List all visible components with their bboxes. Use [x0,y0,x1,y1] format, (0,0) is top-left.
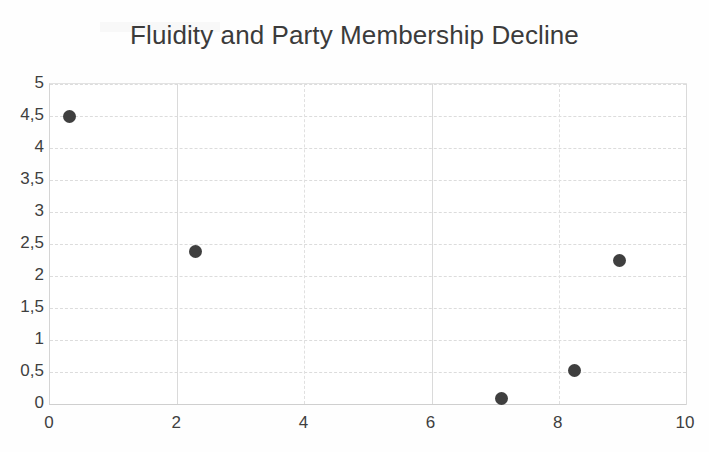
vertical-gridline [432,84,433,404]
chart-title: Fluidity and Party Membership Decline [0,20,709,51]
data-point [189,245,202,258]
y-axis-tick-label: 3 [2,201,44,221]
x-axis: 0246810 [49,413,687,441]
plot-area [49,83,687,405]
y-axis-tick-label: 5 [2,73,44,93]
y-axis-tick-label: 0,5 [2,361,44,381]
horizontal-gridline [50,244,686,245]
horizontal-gridline [50,340,686,341]
vertical-gridline [559,84,560,404]
scatter-chart: Fluidity and Party Membership Decline 00… [0,0,709,452]
y-axis-tick-label: 2,5 [2,233,44,253]
data-point [613,254,626,267]
vertical-gridline [177,84,178,404]
horizontal-gridline [50,180,686,181]
y-axis-tick-label: 3,5 [2,169,44,189]
x-axis-tick-label: 10 [676,413,695,433]
y-axis-tick-label: 1 [2,329,44,349]
y-axis: 00,511,522,533,544,55 [0,83,44,405]
x-axis-tick-label: 2 [171,413,180,433]
horizontal-gridline [50,308,686,309]
x-axis-tick-label: 8 [553,413,562,433]
horizontal-gridline [50,372,686,373]
x-axis-tick-label: 6 [426,413,435,433]
vertical-gridline [304,84,305,404]
horizontal-gridline [50,212,686,213]
y-axis-tick-label: 1,5 [2,297,44,317]
data-point [63,110,76,123]
horizontal-gridline [50,148,686,149]
y-axis-tick-label: 2 [2,265,44,285]
y-axis-tick-label: 0 [2,393,44,413]
data-point [568,364,581,377]
horizontal-gridline [50,84,686,85]
horizontal-gridline [50,116,686,117]
x-axis-tick-label: 4 [299,413,308,433]
y-axis-tick-label: 4 [2,137,44,157]
data-point [495,392,508,405]
horizontal-gridline [50,276,686,277]
x-axis-tick-label: 0 [44,413,53,433]
vertical-gridline [686,84,687,404]
y-axis-tick-label: 4,5 [2,105,44,125]
